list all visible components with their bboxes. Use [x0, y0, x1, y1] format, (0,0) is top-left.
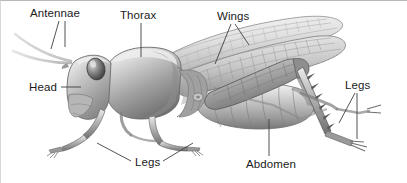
label-wings: Wings [217, 10, 249, 22]
label-antennae: Antennae [30, 7, 80, 19]
label-legs-bottom: Legs [135, 156, 160, 168]
leader-legs-bottom-1 [97, 143, 131, 161]
grasshopper-illustration [1, 1, 407, 183]
grasshopper-anatomy-figure: Antennae Thorax Wings Head Legs Legs Abd… [0, 0, 407, 183]
label-thorax: Thorax [120, 9, 156, 21]
leader-legs-right-1 [339, 93, 355, 123]
label-legs-right: Legs [345, 79, 370, 91]
label-abdomen: Abdomen [246, 158, 296, 170]
antennae-part [13, 34, 71, 63]
label-head: Head [29, 81, 57, 93]
midleg-part [121, 113, 203, 156]
leader-antennae-1 [51, 21, 59, 49]
